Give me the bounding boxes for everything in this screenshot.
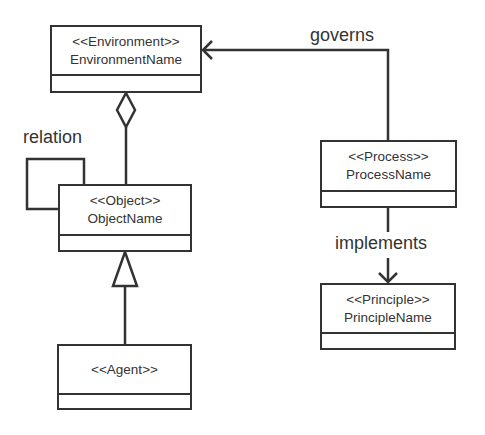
class-principle-header: <<Principle>> PrincipleName (322, 285, 454, 334)
class-agent-header: <<Agent>> (59, 346, 190, 395)
class-process-name: ProcessName (346, 166, 431, 184)
class-environment[interactable]: <<Environment>> EnvironmentName (50, 25, 202, 93)
class-object-name: ObjectName (87, 210, 162, 228)
governs-line (204, 50, 388, 140)
generalization-triangle-icon (113, 252, 137, 286)
class-principle-stereotype: <<Principle>> (346, 291, 429, 309)
class-environment-stereotype: <<Environment>> (72, 33, 179, 51)
class-object-stereotype: <<Object>> (90, 192, 161, 210)
aggregation-diamond-icon (117, 93, 135, 127)
label-relation: relation (23, 127, 82, 148)
class-agent-stereotype: <<Agent>> (91, 361, 158, 379)
class-process-header: <<Process>> ProcessName (322, 142, 455, 192)
class-process-stereotype: <<Process>> (348, 148, 428, 166)
label-implements: implements (335, 233, 427, 254)
class-object[interactable]: <<Object>> ObjectName (58, 184, 192, 252)
class-object-header: <<Object>> ObjectName (60, 186, 190, 236)
class-principle[interactable]: <<Principle>> PrincipleName (320, 283, 456, 350)
class-process[interactable]: <<Process>> ProcessName (320, 140, 457, 208)
class-principle-name: PrincipleName (344, 309, 432, 327)
class-environment-name: EnvironmentName (70, 51, 182, 69)
class-environment-header: <<Environment>> EnvironmentName (52, 27, 200, 76)
label-governs: governs (310, 25, 374, 46)
class-agent[interactable]: <<Agent>> (57, 344, 192, 410)
